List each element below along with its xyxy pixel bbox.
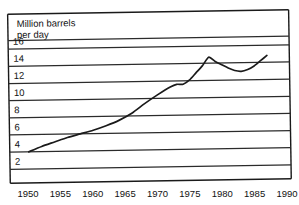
x-axis-tick-label: 1985	[244, 188, 265, 199]
chart-title-line-2: per day	[17, 29, 49, 41]
y-axis-tick-label: 2	[15, 156, 20, 167]
x-axis-tick-labels: 195019551960196519701975198019851990	[17, 188, 297, 199]
y-axis-tick-label: 8	[14, 104, 19, 115]
x-axis-tick-label: 1980	[212, 188, 233, 199]
y-axis-tick-label: 14	[13, 53, 24, 64]
chart-title-line-1: Million barrels	[17, 17, 76, 29]
x-axis-tick-label: 1965	[115, 188, 136, 199]
line-chart: 161412108642 Million barrels per day 195…	[0, 0, 299, 205]
x-axis-tick-label: 1990	[276, 188, 297, 199]
x-axis-tick-label: 1950	[17, 188, 38, 199]
y-axis-tick-label: 10	[14, 87, 25, 98]
y-axis-tick-label: 4	[15, 138, 20, 149]
y-axis-tick-label: 6	[14, 121, 19, 132]
chart-container: 161412108642 Million barrels per day 195…	[0, 0, 299, 205]
x-axis-tick-label: 1975	[179, 188, 200, 199]
y-axis-tick-label: 12	[14, 70, 25, 81]
x-axis-tick-label: 1960	[82, 188, 103, 199]
x-axis-tick-label: 1955	[50, 188, 71, 199]
x-axis-tick-label: 1970	[147, 188, 168, 199]
